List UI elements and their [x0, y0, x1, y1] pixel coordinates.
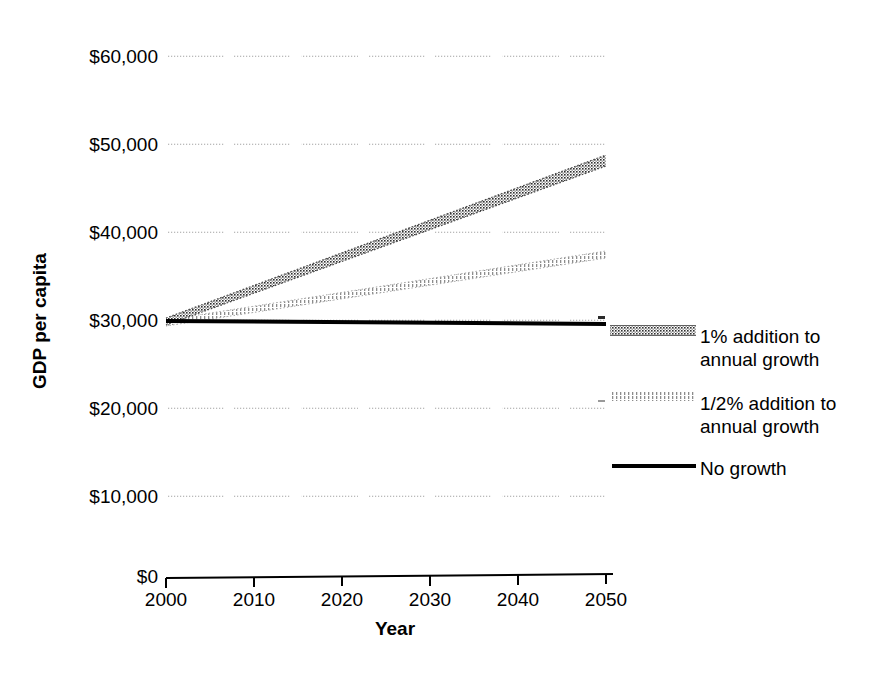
chart-figure: GDP per capita $60,000 $50,000 $40,000 $… [0, 0, 891, 678]
gridline-40000 [167, 231, 605, 233]
gridlines [167, 55, 605, 497]
series-no-growth [166, 321, 606, 324]
legend-swatch-half-pct [598, 392, 696, 402]
legend-swatch-no-growth [612, 464, 696, 468]
legend-swatch-1pct [598, 316, 696, 336]
series-half-pct-addition [166, 251, 606, 326]
gridline-10000 [167, 495, 605, 497]
gridline-50000 [167, 143, 605, 145]
chart-canvas [0, 0, 891, 678]
series-1pct-addition [166, 155, 606, 325]
x-axis [166, 574, 613, 588]
gridline-20000 [167, 407, 605, 409]
gridline-60000 [167, 55, 605, 57]
